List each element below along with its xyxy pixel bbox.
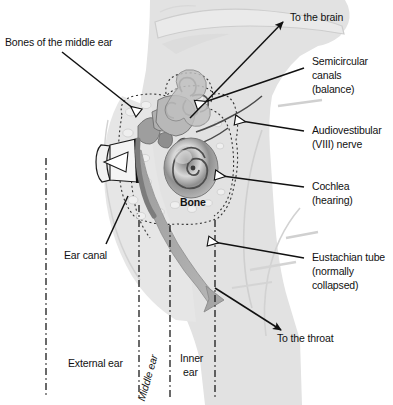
label-cochlea-line2: (hearing) bbox=[312, 194, 353, 207]
label-audiovestibular-nerve-line2: (VIII) nerve bbox=[312, 138, 362, 151]
leader-bones-of-middle-ear bbox=[62, 52, 139, 113]
label-eustachian-tube-line3: collapsed) bbox=[312, 279, 358, 292]
label-to-the-brain: To the brain bbox=[290, 11, 343, 24]
cochlea-highlight bbox=[174, 150, 192, 164]
external-auditory-canal bbox=[96, 139, 138, 183]
faint-mark-2 bbox=[286, 232, 318, 238]
label-inner-ear-line2: ear bbox=[183, 366, 198, 379]
label-bone: Bone bbox=[180, 196, 206, 209]
label-audiovestibular-nerve-line1: Audiovestibular bbox=[312, 124, 382, 137]
cochlea bbox=[164, 138, 218, 198]
label-eustachian-tube-line1: Eustachian tube bbox=[312, 251, 385, 264]
label-semicircular-canals-line1: Semicircular bbox=[312, 55, 368, 68]
label-to-the-throat: To the throat bbox=[277, 332, 333, 345]
label-external-ear: External ear bbox=[68, 357, 123, 370]
label-inner-ear-line1: Inner bbox=[180, 352, 203, 365]
label-cochlea-line1: Cochlea bbox=[312, 180, 349, 193]
label-ear-canal: Ear canal bbox=[64, 249, 107, 262]
faint-mark-1 bbox=[278, 100, 322, 106]
label-semicircular-canals-line2: canals bbox=[312, 69, 341, 82]
ear-anatomy-diagram: Bones of the middle ear Ear canal To the… bbox=[0, 0, 393, 405]
label-semicircular-canals-line3: (balance) bbox=[312, 83, 354, 96]
label-eustachian-tube-line2: (normally bbox=[312, 265, 354, 278]
label-bones-of-the-middle-ear: Bones of the middle ear bbox=[5, 36, 112, 49]
cochlea-apex bbox=[191, 166, 196, 171]
